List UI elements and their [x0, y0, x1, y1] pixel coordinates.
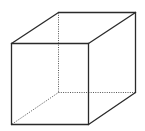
edge-back-top-right-to-front-top-right: [89, 13, 136, 44]
edge-back-bottom-right-to-front-bottom-right: [89, 93, 136, 125]
cube-diagram: [0, 0, 145, 131]
hidden-edges: [12, 13, 136, 125]
visible-edges: [12, 13, 136, 125]
hidden-edge-back-bottom-left-to-front-bottom-left: [12, 93, 59, 125]
wireframe-cube-figure: [0, 0, 145, 131]
edge-front-top-left-to-back-top-left: [12, 13, 59, 44]
